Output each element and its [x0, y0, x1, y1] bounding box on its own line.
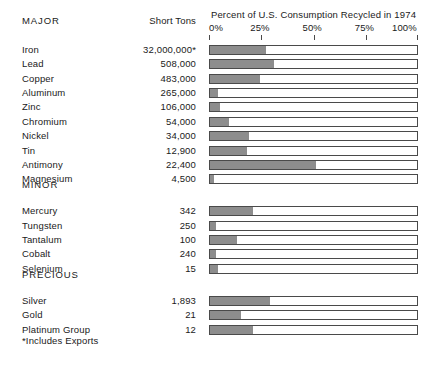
row-bar-fill	[210, 326, 253, 334]
row-bar-track	[209, 174, 418, 184]
row-bar-fill	[210, 75, 260, 83]
column-header-short-tons: Short Tons	[76, 15, 196, 26]
x-axis: 0%25%50%75%100%	[209, 22, 418, 42]
row-bar-fill	[210, 161, 316, 169]
x-axis-tick-label: 100%	[392, 22, 417, 33]
row-bar-fill	[210, 236, 237, 244]
row-value-short-tons: 21	[76, 309, 196, 320]
row-value-short-tons: 483,000	[76, 73, 196, 84]
x-axis-tick-label: 25%	[250, 22, 269, 33]
row-value-short-tons: 12,900	[76, 145, 196, 156]
row-bar-track	[209, 310, 418, 320]
row-bar-fill	[210, 103, 220, 111]
row-bar-fill	[210, 60, 274, 68]
row-bar-track	[209, 74, 418, 84]
x-axis-tick-label: 0%	[209, 22, 223, 33]
row-value-short-tons: 22,400	[76, 159, 196, 170]
row-bar-fill	[210, 207, 253, 215]
row-value-short-tons: 32,000,000*	[76, 44, 196, 55]
row-bar-track	[209, 206, 418, 216]
row-bar-fill	[210, 132, 249, 140]
row-bar-track	[209, 325, 418, 335]
x-axis-tick-mark	[366, 35, 367, 40]
row-value-short-tons: 100	[76, 234, 196, 245]
footnote: *Includes Exports	[22, 335, 98, 346]
row-value-short-tons: 54,000	[76, 116, 196, 127]
row-value-short-tons: 265,000	[76, 87, 196, 98]
row-value-short-tons: 1,893	[76, 295, 196, 306]
row-value-short-tons: 250	[76, 220, 196, 231]
x-axis-tick-mark	[209, 35, 210, 40]
row-bar-fill	[210, 250, 216, 258]
row-bar-track	[209, 45, 418, 55]
row-bar-track	[209, 131, 418, 141]
row-value-short-tons: 106,000	[76, 101, 196, 112]
row-value-short-tons: 508,000	[76, 58, 196, 69]
x-axis-tick-label: 75%	[355, 22, 374, 33]
row-bar-fill	[210, 175, 214, 183]
row-bar-fill	[210, 311, 241, 319]
chart-title: Percent of U.S. Consumption Recycled in …	[209, 9, 418, 20]
row-bar-fill	[210, 89, 218, 97]
row-bar-track	[209, 296, 418, 306]
row-value-short-tons: 342	[76, 205, 196, 216]
row-value-short-tons: 4,500	[76, 173, 196, 184]
chart-row: Magnesium4,500	[0, 173, 439, 190]
x-axis-tick-mark	[417, 35, 418, 40]
recycling-percent-chart: MAJOR Short Tons Percent of U.S. Consump…	[0, 0, 439, 368]
row-value-short-tons: 15	[76, 263, 196, 274]
row-bar-track	[209, 249, 418, 259]
x-axis-tick-mark	[314, 35, 315, 40]
row-bar-fill	[210, 222, 216, 230]
row-bar-track	[209, 264, 418, 274]
row-bar-fill	[210, 118, 229, 126]
x-axis-tick-label: 50%	[303, 22, 322, 33]
x-axis-tick-mark	[261, 35, 262, 40]
row-bar-track	[209, 160, 418, 170]
row-bar-fill	[210, 265, 218, 273]
row-bar-track	[209, 59, 418, 69]
row-bar-fill	[210, 147, 247, 155]
row-value-short-tons: 12	[76, 324, 196, 335]
row-bar-track	[209, 117, 418, 127]
row-value-short-tons: 240	[76, 248, 196, 259]
column-header-category: MAJOR	[22, 15, 60, 26]
row-bar-track	[209, 88, 418, 98]
row-bar-fill	[210, 297, 270, 305]
row-bar-fill	[210, 46, 266, 54]
row-bar-track	[209, 146, 418, 156]
row-bar-track	[209, 221, 418, 231]
row-bar-track	[209, 235, 418, 245]
row-bar-track	[209, 102, 418, 112]
row-value-short-tons: 34,000	[76, 130, 196, 141]
chart-row: Selenium15	[0, 263, 439, 280]
